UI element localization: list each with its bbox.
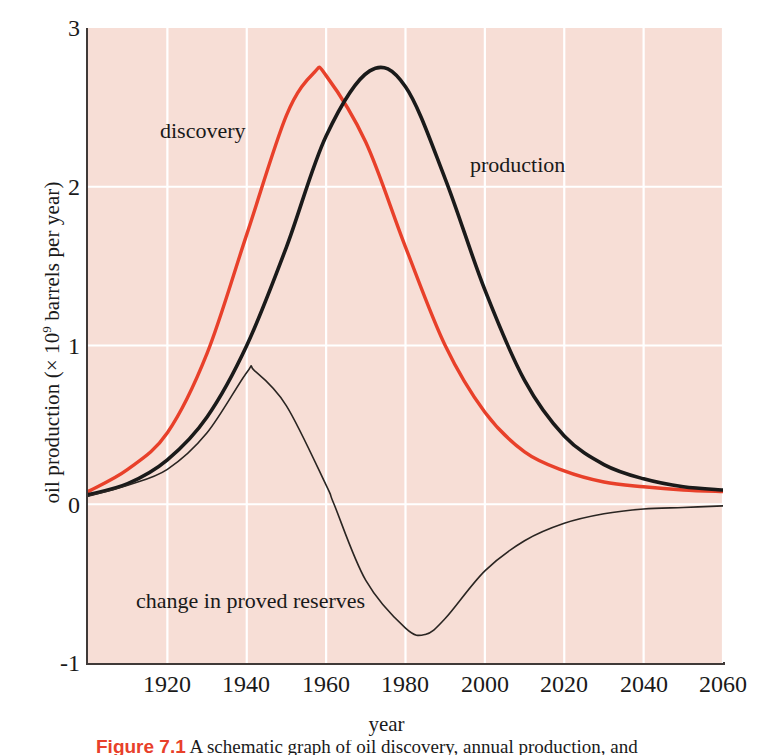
y-axis-tick-labels: 3 2 1 0 -1 [40, 0, 80, 755]
series-label-reserves: change in proved reserves [136, 588, 365, 614]
y-tick-1: 1 [42, 334, 80, 358]
figure-caption: Figure 7.1 A schematic graph of oil disc… [0, 740, 773, 755]
y-tick-2: 2 [42, 175, 80, 199]
x-axis-tick-labels: 1920 1940 1960 1980 2000 2020 2040 2060 [0, 672, 773, 706]
x-tick-2060: 2060 [668, 672, 773, 696]
x-axis-title: year [0, 712, 773, 737]
figure-root: oil production (× 109 barrels per year) … [0, 0, 773, 755]
y-tick-0: 0 [42, 493, 80, 517]
series-label-production: production [470, 152, 565, 178]
series-label-discovery: discovery [160, 118, 246, 144]
y-tick-3: 3 [42, 16, 80, 40]
caption-figure-number: Figure 7.1 [96, 740, 186, 755]
caption-text: A schematic graph of oil discovery, annu… [189, 740, 637, 755]
